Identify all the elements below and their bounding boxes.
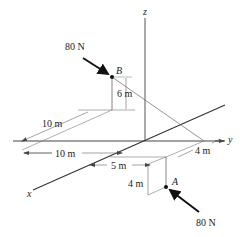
force-b: 80 N xyxy=(65,41,108,74)
dim-a-y-offset: 5 m xyxy=(111,160,127,171)
force-b-label: 80 N xyxy=(65,41,85,52)
force-a: 80 N xyxy=(170,190,216,228)
dim-b-x-offset: 10 m xyxy=(42,118,63,129)
dim-b-y-offset: 10 m xyxy=(55,148,76,159)
x-axis-label: x xyxy=(26,188,32,199)
dim-b-height: 6 m xyxy=(117,88,133,99)
force-diagram: z y x xyxy=(0,0,245,237)
point-b-label: B xyxy=(116,65,122,76)
force-a-label: 80 N xyxy=(196,217,216,228)
diagram-canvas: z y x xyxy=(0,0,245,237)
dim-a-depth: 4 m xyxy=(128,178,144,189)
z-axis-label: z xyxy=(142,6,147,17)
z-axis: z xyxy=(142,6,147,141)
point-b-construction xyxy=(22,77,204,153)
point-a-label: A xyxy=(171,176,179,187)
y-axis-label: y xyxy=(227,134,233,145)
point-b xyxy=(110,75,114,79)
point-a xyxy=(164,185,168,189)
dim-a-x-offset: 4 m xyxy=(195,145,211,156)
